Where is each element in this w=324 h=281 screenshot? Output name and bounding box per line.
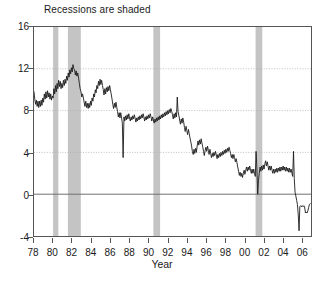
x-tick-label: 90: [143, 247, 154, 258]
x-tick-mark: [52, 238, 53, 243]
x-axis-labels: 788082848688909294969800020406: [0, 239, 324, 257]
x-tick-label: 96: [201, 247, 212, 258]
x-tick-label: 78: [27, 247, 38, 258]
x-tick-mark: [129, 238, 130, 243]
x-tick-label: 80: [47, 247, 58, 258]
x-tick-label: 06: [297, 247, 308, 258]
x-tick-mark: [245, 238, 246, 243]
x-tick-mark: [110, 238, 111, 243]
x-tick-mark: [225, 238, 226, 243]
x-tick-label: 82: [66, 247, 77, 258]
x-tick-mark: [302, 238, 303, 243]
x-axis-title: Year: [0, 258, 324, 270]
chart-title: Recessions are shaded: [44, 4, 151, 15]
x-tick-label: 94: [181, 247, 192, 258]
chart-container: Recessions are shaded -40481216 78808284…: [0, 0, 324, 281]
x-tick-mark: [264, 238, 265, 243]
x-tick-mark: [168, 238, 169, 243]
x-tick-label: 88: [124, 247, 135, 258]
recession-band: [53, 27, 58, 236]
recession-band: [153, 27, 160, 236]
x-tick-label: 92: [162, 247, 173, 258]
x-tick-mark: [33, 238, 34, 243]
x-tick-mark: [206, 238, 207, 243]
x-tick-mark: [91, 238, 92, 243]
x-tick-mark: [187, 238, 188, 243]
x-tick-mark: [148, 238, 149, 243]
chart-svg: [34, 27, 311, 236]
x-tick-mark: [71, 238, 72, 243]
recession-band: [256, 27, 263, 236]
plot-area: [33, 26, 312, 237]
x-tick-label: 00: [239, 247, 250, 258]
x-tick-label: 86: [104, 247, 115, 258]
recession-band: [68, 27, 81, 236]
x-tick-mark: [283, 238, 284, 243]
x-tick-label: 98: [220, 247, 231, 258]
x-tick-label: 02: [258, 247, 269, 258]
x-tick-label: 04: [278, 247, 289, 258]
x-tick-label: 84: [85, 247, 96, 258]
